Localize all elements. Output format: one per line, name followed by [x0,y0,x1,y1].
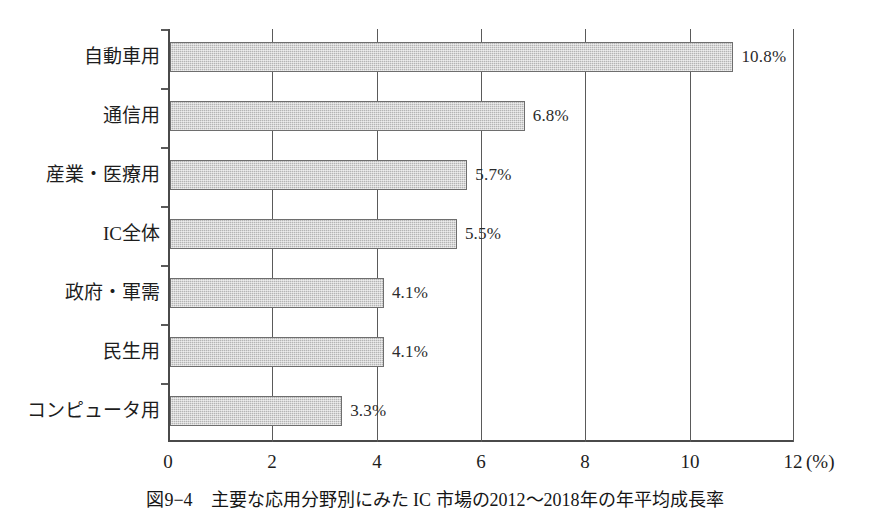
bar-value-label-0: 10.8% [741,43,786,71]
x-axis-unit-label: (%) [806,449,834,475]
category-label-4: 政府・軍需 [0,279,160,307]
bar-2[interactable] [170,160,467,190]
y-axis-tick-6 [161,383,168,385]
plot-area: 10.8% 6.8% 5.7% 5.5% 4.1% 4.1% 3.3% 0 2 [168,29,794,442]
x-tick-label-2: 4 [372,449,382,475]
x-tick-label-4: 8 [580,449,590,475]
bar-row-2: 5.7% [168,147,794,203]
x-tick-label-6: 12 [784,449,803,475]
category-label-0: 自動車用 [0,43,160,71]
bar-value-label-3: 5.5% [465,220,501,248]
bar-row-3: 5.5% [168,206,794,262]
x-tick-label-5: 10 [681,449,700,475]
x-tick-label-3: 6 [476,449,486,475]
y-axis-tick-2 [161,147,168,149]
y-axis-tick-4 [161,265,168,267]
y-axis-tick-3 [161,206,168,208]
y-axis-tick-5 [161,324,168,326]
figure-caption: 図9−4 主要な応用分野別にみた IC 市場の2012〜2018年の年平均成長率 [0,487,870,509]
bar-value-label-5: 4.1% [392,338,428,366]
bar-6[interactable] [170,396,342,426]
bar-row-1: 6.8% [168,88,794,144]
bar-row-5: 4.1% [168,324,794,380]
bar-row-6: 3.3% [168,383,794,439]
bar-1[interactable] [170,101,525,131]
category-axis-labels: 自動車用 通信用 産業・医療用 IC全体 政府・軍需 民生用 コンピュータ用 [0,29,160,442]
x-tick-label-1: 2 [267,449,277,475]
bar-value-label-1: 6.8% [533,102,569,130]
category-label-5: 民生用 [0,338,160,366]
bar-value-label-4: 4.1% [392,279,428,307]
bar-0[interactable] [170,42,733,72]
bar-value-label-2: 5.7% [475,161,511,189]
y-axis-tick-1 [161,88,168,90]
category-label-1: 通信用 [0,102,160,130]
bar-3[interactable] [170,219,457,249]
bar-4[interactable] [170,278,384,308]
bar-value-label-6: 3.3% [350,397,386,425]
bar-row-4: 4.1% [168,265,794,321]
bar-5[interactable] [170,337,384,367]
figure-container: 自動車用 通信用 産業・医療用 IC全体 政府・軍需 民生用 コンピュータ用 1… [0,0,870,509]
x-tick-label-0: 0 [163,449,173,475]
category-label-6: コンピュータ用 [0,397,160,425]
bar-row-0: 10.8% [168,29,794,85]
category-label-2: 産業・医療用 [0,161,160,189]
category-label-3: IC全体 [0,220,160,248]
y-axis-tick-0 [161,29,168,31]
